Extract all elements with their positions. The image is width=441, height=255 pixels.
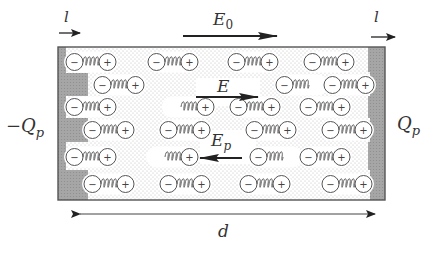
plus-sign: + bbox=[359, 179, 367, 190]
right-charge-label: Qp bbox=[397, 113, 421, 138]
dipole: −+ bbox=[298, 147, 352, 168]
dipole: −+ bbox=[320, 120, 374, 141]
plus-sign: + bbox=[283, 125, 291, 136]
plus-sign: + bbox=[359, 125, 367, 136]
dipole: −+ bbox=[320, 174, 374, 195]
dipole: −+ bbox=[238, 174, 292, 195]
minus-sign: − bbox=[70, 102, 78, 113]
applied-field-label: E0 bbox=[212, 9, 233, 32]
plus-sign: + bbox=[361, 80, 369, 91]
plus-sign: + bbox=[337, 152, 345, 163]
minus-sign: − bbox=[88, 179, 96, 190]
plus-sign: + bbox=[277, 179, 285, 190]
dipole: −+ bbox=[64, 147, 118, 168]
plus-sign: + bbox=[341, 57, 349, 68]
dipole: −+ bbox=[92, 75, 146, 96]
dipole: −+ bbox=[64, 97, 118, 118]
minus-sign: − bbox=[250, 125, 258, 136]
minus-sign: − bbox=[152, 57, 160, 68]
minus-sign: − bbox=[308, 57, 316, 68]
minus-sign: − bbox=[232, 57, 240, 68]
dipole: −+ bbox=[146, 52, 200, 73]
minus-sign: − bbox=[70, 57, 78, 68]
minus-sign: − bbox=[304, 152, 312, 163]
dipole: −+ bbox=[228, 97, 282, 118]
plus-sign: + bbox=[103, 57, 111, 68]
dipole: −+ bbox=[64, 52, 118, 73]
dipole: −+ bbox=[322, 75, 376, 96]
dipole: − bbox=[248, 147, 302, 168]
dipole: + bbox=[146, 147, 200, 168]
plus-sign: + bbox=[197, 179, 205, 190]
plus-sign: + bbox=[131, 80, 139, 91]
net-field-label: E bbox=[216, 76, 230, 96]
minus-sign: − bbox=[164, 125, 172, 136]
plus-sign: + bbox=[121, 125, 129, 136]
plus-sign: + bbox=[337, 102, 345, 113]
plus-sign: + bbox=[201, 102, 209, 113]
minus-sign: − bbox=[98, 80, 106, 91]
minus-sign: − bbox=[280, 80, 288, 91]
plus-sign: + bbox=[103, 102, 111, 113]
minus-sign: − bbox=[328, 80, 336, 91]
plus-sign: + bbox=[121, 179, 129, 190]
separation-label: d bbox=[218, 221, 229, 241]
dipole: −+ bbox=[298, 97, 352, 118]
minus-sign: − bbox=[164, 179, 172, 190]
dipole: − bbox=[274, 75, 328, 96]
minus-sign: − bbox=[254, 152, 262, 163]
left-charge-label: −Qp bbox=[6, 115, 45, 140]
minus-sign: − bbox=[70, 152, 78, 163]
minus-sign: − bbox=[88, 125, 96, 136]
capacitor-dielectric-diagram: −+−+−+−+−+−−+−++−+−+−+−+−+−+−++−−+−+−+−+… bbox=[0, 0, 441, 255]
plus-sign: + bbox=[185, 57, 193, 68]
dipole: −+ bbox=[82, 120, 136, 141]
minus-sign: − bbox=[304, 102, 312, 113]
dipole: −+ bbox=[226, 52, 280, 73]
plus-sign: + bbox=[265, 57, 273, 68]
current-left-label: l bbox=[64, 8, 69, 26]
dipole: −+ bbox=[82, 174, 136, 195]
dipole: −+ bbox=[158, 120, 212, 141]
minus-sign: − bbox=[234, 102, 242, 113]
dipole: + bbox=[162, 97, 216, 118]
minus-sign: − bbox=[326, 125, 334, 136]
plus-sign: + bbox=[103, 152, 111, 163]
plus-sign: + bbox=[185, 152, 193, 163]
plus-sign: + bbox=[197, 125, 205, 136]
current-right-label: l bbox=[374, 8, 379, 26]
minus-sign: − bbox=[244, 179, 252, 190]
dipole: −+ bbox=[158, 174, 212, 195]
dipole: −+ bbox=[244, 120, 298, 141]
dipole: −+ bbox=[302, 52, 356, 73]
minus-sign: − bbox=[326, 179, 334, 190]
plus-sign: + bbox=[267, 102, 275, 113]
